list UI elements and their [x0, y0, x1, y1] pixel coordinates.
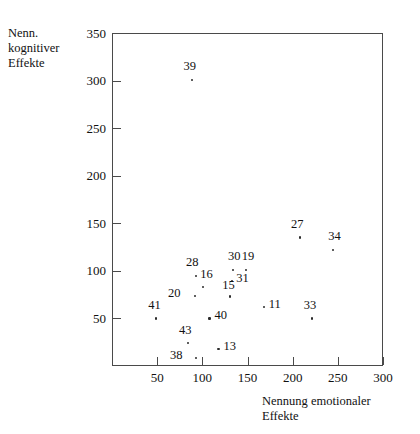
x-axis-tick-label: 150 — [223, 371, 273, 385]
data-point-marker — [263, 306, 265, 308]
data-point-label: 30 — [228, 250, 241, 263]
data-point-label: 16 — [200, 268, 213, 281]
data-point-marker — [311, 317, 313, 319]
y-axis-tick-label: 350 — [62, 27, 106, 40]
data-point-label: 41 — [148, 299, 161, 312]
y-axis-tick — [113, 176, 121, 177]
data-point-label: 43 — [179, 324, 192, 337]
x-axis-title-line-2: Effekte — [262, 409, 412, 424]
x-axis-tick-label: 250 — [313, 371, 363, 385]
y-axis-title-line-2: kognitiver — [8, 41, 104, 56]
x-axis-tick-label: 100 — [177, 371, 227, 385]
data-point-label: 27 — [291, 218, 304, 231]
y-axis-tick — [113, 128, 121, 129]
data-point-label: 13 — [224, 340, 237, 353]
data-point-label: 34 — [328, 230, 341, 243]
x-axis-tick — [157, 357, 158, 365]
y-axis-tick-label: 150 — [62, 217, 106, 230]
x-axis-tick — [248, 357, 249, 365]
data-point-marker — [208, 317, 210, 319]
x-axis-tick-label: 200 — [268, 371, 318, 385]
y-axis-tick — [113, 318, 121, 319]
data-point-label: 40 — [215, 309, 228, 322]
data-point-label: 19 — [242, 250, 255, 263]
x-axis-title: Nennung emotionaler Effekte — [262, 394, 412, 424]
y-axis-tick — [113, 271, 121, 272]
x-axis-tick — [293, 357, 294, 365]
y-axis-tick-label: 250 — [62, 122, 106, 135]
plot-area — [112, 33, 383, 366]
scatter-chart: Nenn. kognitiver Effekte Nennung emotion… — [0, 0, 420, 434]
data-point-marker — [217, 348, 219, 350]
y-axis-title-line-3: Effekte — [8, 56, 104, 71]
data-point-label: 38 — [170, 349, 183, 362]
y-axis-tick — [113, 223, 121, 224]
data-point-label: 11 — [269, 298, 281, 311]
x-axis-tick — [202, 357, 203, 365]
y-axis-tick-label: 50 — [62, 312, 106, 325]
y-axis-tick — [113, 81, 121, 82]
x-axis-tick-label: 50 — [132, 371, 182, 385]
x-axis-tick-label: 300 — [358, 371, 408, 385]
data-point-label: 15 — [222, 279, 235, 292]
data-point-label: 39 — [183, 60, 196, 73]
y-axis-tick-label: 300 — [62, 74, 106, 87]
x-axis-tick — [338, 357, 339, 365]
data-point-label: 28 — [186, 256, 199, 269]
y-axis-tick — [113, 33, 121, 34]
data-point-marker — [195, 275, 197, 277]
y-axis-tick-label: 100 — [62, 264, 106, 277]
x-axis-title-line-1: Nennung emotionaler — [262, 394, 412, 409]
data-point-label: 33 — [304, 299, 317, 312]
data-point-marker — [194, 295, 196, 297]
data-point-label: 20 — [168, 287, 181, 300]
data-point-label: 31 — [236, 272, 249, 285]
x-axis-tick — [383, 357, 384, 365]
data-point-marker — [299, 236, 301, 238]
y-axis-tick-label: 200 — [62, 169, 106, 182]
